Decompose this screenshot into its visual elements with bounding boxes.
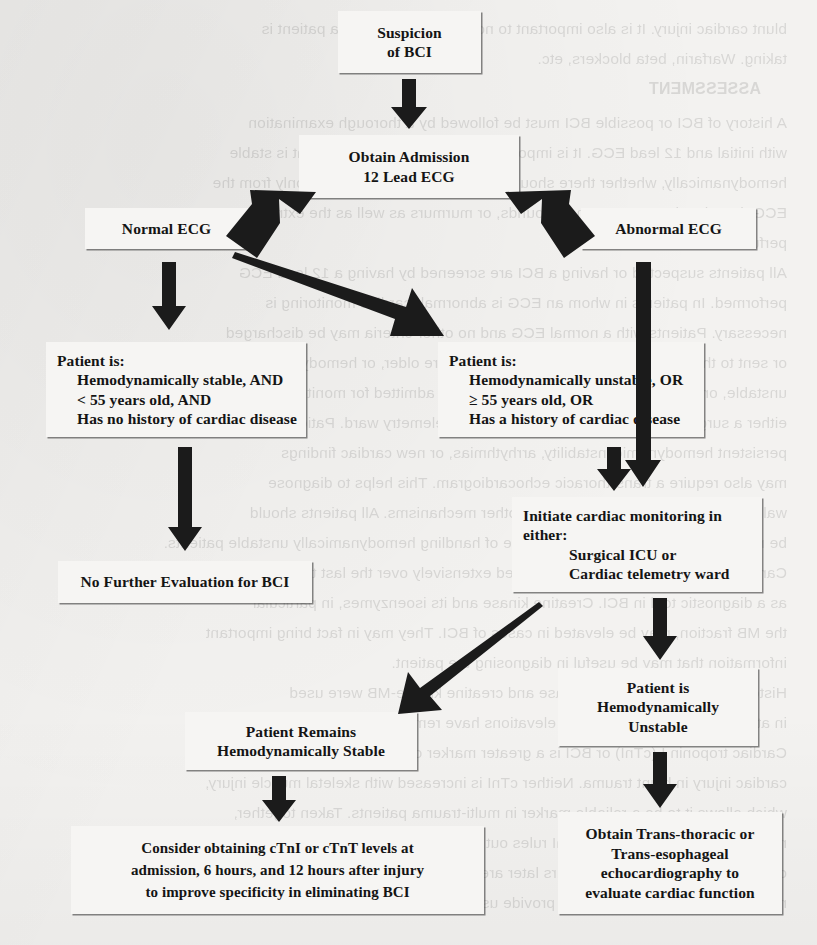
node-normal-ecg: Normal ECG	[85, 208, 248, 249]
node-line: of BCI	[387, 42, 432, 62]
node-line: Surgical ICU or	[523, 545, 676, 565]
arrow-unstable-to-echo	[643, 752, 677, 808]
node-line: Obtain Admission	[349, 147, 470, 167]
node-line: Hemodynamically stable, AND	[57, 370, 283, 390]
node-line: Normal ECG	[122, 219, 211, 239]
node-line: Initiate cardiac monitoring in	[523, 506, 722, 526]
node-line: Unstable	[628, 717, 687, 737]
arrow-suspicion-to-ecg	[391, 79, 427, 129]
node-line: Patient Remains	[246, 722, 356, 742]
flowchart-page: blunt cardiac injury. It is also importa…	[0, 0, 817, 945]
node-line: < 55 years old, AND	[57, 390, 211, 410]
node-line: echocardiography to	[601, 863, 739, 883]
node-line: Patient is:	[57, 351, 125, 371]
arrow-normal-to-stable-criteria	[152, 262, 186, 330]
arrow-unstable-to-monitoring	[597, 447, 631, 491]
arrow-monitoring-to-unstable	[643, 598, 677, 660]
node-patient-remains-stable: Patient Remains Hemodynamically Stable	[185, 712, 417, 770]
node-suspicion-of-bci: Suspicion of BCI	[338, 11, 481, 73]
node-line: Patient is:	[449, 351, 517, 371]
node-line: 12 Lead ECG	[363, 167, 455, 187]
node-line: Cardiac telemetry ward	[523, 564, 730, 584]
node-line: Has no history of cardiac disease	[57, 409, 297, 429]
node-line: Hemodynamically Stable	[217, 741, 385, 761]
node-obtain-admission-ecg: Obtain Admission 12 Lead ECG	[299, 135, 519, 198]
bleed-line: A history of BCI or possible BCI must be…	[248, 108, 787, 138]
node-line: to improve specificity in eliminating BC…	[145, 881, 409, 903]
node-troponin-levels: Consider obtaining cTnI or cTnT levels a…	[71, 826, 484, 914]
arrow-ecg-to-normal	[226, 190, 316, 260]
node-patient-stable-criteria: Patient is: Hemodynamically stable, AND …	[46, 342, 306, 437]
node-line: either:	[523, 525, 568, 545]
arrow-ecg-to-abnormal	[505, 190, 595, 260]
arrow-remains-stable-to-troponin	[262, 776, 296, 822]
node-line: No Further Evaluation for BCI	[80, 572, 289, 592]
node-patient-unstable-criteria: Patient is: Hemodynamically unstable, OR…	[438, 342, 704, 437]
bleed-line: ASSESSMENT	[649, 74, 761, 104]
arrow-normal-to-unstable-criteria	[232, 252, 444, 340]
arrow-monitoring-to-remains-stable	[398, 602, 543, 714]
arrow-stable-to-no-further-eval	[168, 447, 202, 551]
node-abnormal-ecg: Abnormal ECG	[581, 208, 756, 249]
node-line: ≥ 55 years old, OR	[449, 390, 593, 410]
node-line: Abnormal ECG	[615, 219, 722, 239]
bleed-line: taking. Warfarin, beta blockers, etc.	[537, 44, 787, 74]
node-echocardiography: Obtain Trans-thoracic or Trans-esophagea…	[558, 812, 782, 914]
bleed-line: may also require a trans-thoracic echoca…	[268, 468, 787, 498]
node-line: Hemodynamically	[597, 697, 719, 717]
node-line: Trans-esophageal	[611, 844, 729, 864]
node-no-further-evaluation: No Further Evaluation for BCI	[58, 561, 312, 603]
node-line: Obtain Trans-thoracic or	[586, 824, 755, 844]
node-line: admission, 6 hours, and 12 hours after i…	[131, 859, 424, 881]
node-initiate-cardiac-monitoring: Initiate cardiac monitoring in either: S…	[512, 497, 762, 592]
node-line: Patient is	[627, 678, 690, 698]
node-line: Consider obtaining cTnI or cTnT levels a…	[141, 837, 413, 859]
node-line: evaluate cardiac function	[585, 883, 755, 903]
node-line: Suspicion	[377, 23, 442, 43]
bleed-line: persistent hemodynamic instability, arrh…	[281, 438, 787, 468]
node-patient-is-unstable: Patient is Hemodynamically Unstable	[558, 668, 758, 746]
